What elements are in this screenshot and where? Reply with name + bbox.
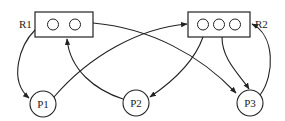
edge-r1-p3 bbox=[93, 23, 236, 93]
process-p3: P3 bbox=[237, 90, 263, 116]
edge-r2-p2 bbox=[150, 37, 203, 97]
r2-instance-3 bbox=[230, 19, 241, 30]
p2-label: P2 bbox=[130, 97, 142, 109]
r1-label: R1 bbox=[19, 18, 32, 30]
r1-instance-2 bbox=[70, 19, 81, 30]
r2-instance-2 bbox=[214, 19, 225, 30]
r2-instance-1 bbox=[198, 19, 209, 30]
p1-label: P1 bbox=[37, 98, 49, 110]
r2-label: R2 bbox=[255, 18, 268, 30]
process-p2: P2 bbox=[123, 90, 149, 116]
resource-allocation-diagram: R1 R2 P1 P2 P3 bbox=[0, 0, 285, 121]
edge-p2-r1 bbox=[67, 39, 123, 99]
p3-label: P3 bbox=[244, 97, 256, 109]
edge-p1-r2 bbox=[54, 24, 187, 97]
resource-r1: R1 bbox=[19, 12, 93, 37]
process-p1: P1 bbox=[30, 91, 56, 117]
edge-p3-r2 bbox=[252, 24, 270, 95]
r1-instance-1 bbox=[48, 19, 59, 30]
edge-r2-p3 bbox=[222, 37, 249, 89]
resource-r2: R2 bbox=[188, 12, 268, 37]
edge-r1-p1 bbox=[18, 30, 35, 98]
